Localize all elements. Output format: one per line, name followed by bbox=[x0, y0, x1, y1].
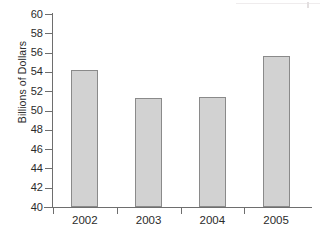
y-tick-label: 42 bbox=[3, 182, 43, 193]
x-tick-label: 2002 bbox=[53, 214, 117, 227]
y-tick-label: 48 bbox=[3, 124, 43, 135]
y-tick bbox=[45, 91, 52, 92]
plot-area bbox=[53, 14, 308, 207]
y-tick-label: 46 bbox=[3, 144, 43, 155]
y-tick bbox=[45, 207, 52, 208]
y-tick bbox=[45, 149, 52, 150]
bar bbox=[199, 97, 226, 207]
y-tick bbox=[45, 188, 52, 189]
y-tick-label: 54 bbox=[3, 66, 43, 77]
y-axis-title: Billions of Dollars bbox=[16, 0, 28, 166]
bar bbox=[263, 56, 290, 208]
x-tick-label: 2003 bbox=[117, 214, 181, 227]
y-tick-label: 58 bbox=[3, 28, 43, 39]
y-tick bbox=[45, 53, 52, 54]
y-tick-label: 40 bbox=[3, 202, 43, 213]
scan-artifact-mark bbox=[307, 2, 309, 8]
y-tick bbox=[45, 72, 52, 73]
y-tick bbox=[45, 130, 52, 131]
y-tick-label: 52 bbox=[3, 86, 43, 97]
y-tick-label: 56 bbox=[3, 47, 43, 58]
y-tick-label: 44 bbox=[3, 163, 43, 174]
y-tick bbox=[45, 168, 52, 169]
x-axis-line bbox=[44, 207, 312, 208]
y-tick-label: 50 bbox=[3, 105, 43, 116]
bar bbox=[71, 70, 98, 207]
bar-chart: Billions of Dollars 40424446485052545658… bbox=[0, 0, 322, 228]
x-tick-label: 2004 bbox=[180, 214, 244, 227]
y-tick bbox=[45, 33, 52, 34]
bar bbox=[135, 98, 162, 207]
y-tick bbox=[45, 14, 52, 15]
y-tick bbox=[45, 111, 52, 112]
y-tick-label: 60 bbox=[3, 9, 43, 20]
x-tick-label: 2005 bbox=[244, 214, 308, 227]
